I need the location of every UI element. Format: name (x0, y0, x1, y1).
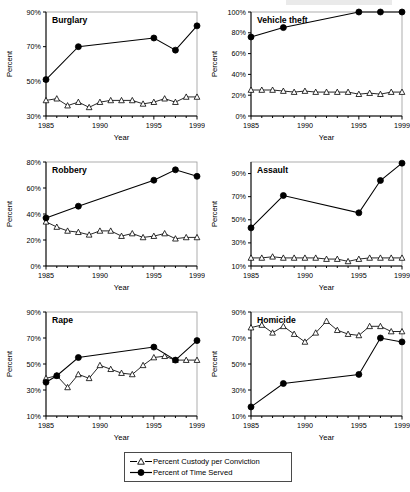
y-axis-title: Percent (210, 200, 219, 227)
data-point-marker (280, 381, 286, 387)
x-axis-title: Year (319, 283, 335, 292)
data-point-marker (377, 177, 383, 183)
data-point-marker (76, 99, 82, 104)
x-tick-label: 1990 (92, 121, 108, 130)
x-tick-label: 1999 (394, 121, 410, 130)
chart-homicide: 10%30%50%70%90%1985199019951999YearPerce… (205, 300, 410, 450)
chart-assault: 10%30%50%70%90%1985199019951999YearPerce… (205, 150, 410, 300)
data-point-marker (75, 44, 81, 50)
x-tick-label: 1995 (351, 421, 367, 430)
y-tick-label: 90% (232, 308, 247, 317)
y-tick-label: 40% (27, 210, 42, 219)
data-point-marker (291, 331, 297, 336)
x-axis-title: Year (114, 283, 130, 292)
data-point-marker (43, 379, 49, 385)
panel-robbery: 0%20%40%60%80%1985199019951999YearPercen… (0, 150, 205, 300)
panel-burglary: 30%50%70%90%1985199019951999YearPercentB… (0, 0, 205, 150)
x-tick-label: 1985 (38, 121, 54, 130)
y-tick-label: 80% (232, 28, 247, 37)
filled-circle-marker-icon (129, 467, 153, 478)
data-point-marker (356, 9, 362, 15)
data-point-marker (399, 9, 405, 15)
x-tick-label: 1995 (146, 271, 162, 280)
panel-rape: 10%30%50%70%90%1985199019951999YearPerce… (0, 300, 205, 450)
y-tick-label: 50% (27, 77, 42, 86)
data-point-marker (151, 177, 157, 183)
panel-title: Robbery (52, 165, 87, 175)
x-axis-title: Year (114, 433, 130, 442)
y-axis-title: Percent (210, 50, 219, 77)
y-tick-label: 30% (232, 238, 247, 247)
y-tick-label: 20% (27, 236, 42, 245)
data-point-marker (302, 88, 308, 93)
y-tick-label: 30% (27, 386, 42, 395)
x-tick-label: 1990 (297, 421, 313, 430)
chart-robbery: 0%20%40%60%80%1985199019951999YearPercen… (0, 150, 205, 300)
y-tick-label: 50% (27, 360, 42, 369)
data-point-marker (194, 338, 200, 344)
legend-label-custody: Percent Custody per Conviction (153, 456, 260, 467)
panel-title: Burglary (52, 15, 88, 25)
data-point-marker (172, 357, 178, 363)
data-point-marker (356, 371, 362, 377)
y-tick-label: 80% (27, 158, 42, 167)
y-tick-label: 10% (232, 412, 247, 421)
panel-grid: 30%50%70%90%1985199019951999YearPercentB… (0, 0, 410, 450)
panel-vehicle-theft: 0%20%40%60%80%100%1985199019951999YearPe… (205, 0, 410, 150)
series-line (251, 338, 402, 407)
data-point-marker (43, 215, 49, 221)
data-point-marker (140, 362, 146, 367)
data-point-marker (377, 9, 383, 15)
x-axis-title: Year (319, 433, 335, 442)
data-point-marker (54, 96, 60, 101)
data-point-marker (356, 210, 362, 216)
y-tick-label: 60% (27, 184, 42, 193)
x-tick-label: 1990 (297, 271, 313, 280)
y-tick-label: 50% (232, 360, 247, 369)
y-tick-label: 0% (236, 112, 247, 121)
data-point-marker (194, 173, 200, 179)
panel-assault: 10%30%50%70%90%1985199019951999YearPerce… (205, 150, 410, 300)
y-tick-label: 90% (27, 308, 42, 317)
data-point-marker (129, 231, 135, 236)
data-point-marker (324, 318, 330, 323)
data-point-marker (399, 160, 405, 166)
data-point-marker (248, 225, 254, 231)
chart-burglary: 30%50%70%90%1985199019951999YearPercentB… (0, 0, 205, 150)
x-tick-label: 1985 (243, 271, 259, 280)
x-tick-label: 1995 (146, 421, 162, 430)
legend-item-time-served: Percent of Time Served (129, 467, 286, 478)
y-tick-label: 90% (27, 8, 42, 17)
x-tick-label: 1990 (92, 271, 108, 280)
x-tick-label: 1985 (243, 421, 259, 430)
data-point-marker (248, 404, 254, 410)
data-point-marker (162, 231, 168, 236)
y-axis-title: Percent (210, 350, 219, 377)
series-line (46, 170, 197, 218)
data-point-marker (43, 77, 49, 83)
data-point-marker (280, 193, 286, 199)
data-point-marker (151, 35, 157, 41)
plot-frame (251, 12, 402, 116)
chart-vehicle-theft: 0%20%40%60%80%100%1985199019951999YearPe… (205, 0, 410, 150)
x-tick-label: 1999 (189, 121, 205, 130)
y-tick-label: 0% (31, 262, 42, 271)
x-tick-label: 1985 (243, 121, 259, 130)
panel-title: Vehicle theft (257, 15, 308, 25)
data-point-marker (75, 203, 81, 209)
y-tick-label: 90% (232, 169, 247, 178)
chart-rape: 10%30%50%70%90%1985199019951999YearPerce… (0, 300, 205, 450)
y-tick-label: 70% (232, 192, 247, 201)
y-tick-label: 30% (27, 112, 42, 121)
legend-item-custody: Percent Custody per Conviction (129, 456, 286, 467)
data-point-marker (97, 362, 103, 367)
plot-frame (46, 162, 197, 266)
panel-title: Assault (257, 165, 288, 175)
data-point-marker (172, 167, 178, 173)
x-tick-label: 1999 (189, 421, 205, 430)
x-tick-label: 1995 (146, 121, 162, 130)
x-tick-label: 1999 (394, 421, 410, 430)
data-point-marker (280, 25, 286, 31)
data-point-marker (194, 23, 200, 29)
y-tick-label: 10% (27, 412, 42, 421)
